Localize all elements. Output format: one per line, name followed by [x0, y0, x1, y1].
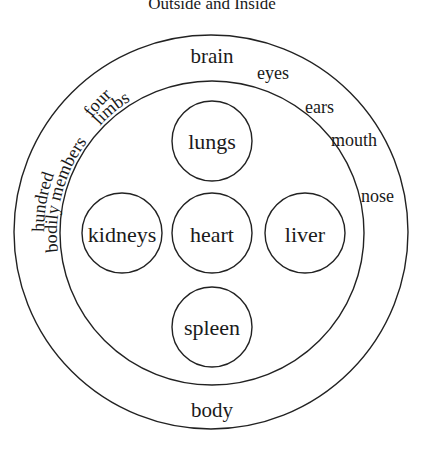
organ-lungs: lungs	[172, 101, 252, 181]
organ-label: liver	[285, 222, 326, 247]
diagram-title: Outside and Inside	[148, 0, 275, 13]
label-brain: brain	[190, 44, 234, 68]
organ-label: lungs	[188, 129, 236, 154]
label-eyes: eyes	[257, 63, 289, 83]
organ-label: kidneys	[88, 222, 156, 247]
organ-heart: heart	[172, 193, 252, 273]
organ-label: spleen	[184, 315, 240, 340]
label-nose: nose	[361, 186, 394, 206]
label-ears: ears	[305, 97, 334, 117]
label-mouth: mouth	[331, 130, 377, 150]
organ-spleen: spleen	[172, 287, 252, 367]
organ-label: heart	[190, 222, 234, 247]
label-bodily-members: bodily members	[41, 133, 91, 254]
organ-liver: liver	[265, 193, 345, 273]
organ-kidneys: kidneys	[82, 193, 162, 273]
body-organs-diagram: Outside and Inside brain eyes ears mouth…	[0, 0, 425, 454]
label-body: body	[191, 398, 234, 422]
